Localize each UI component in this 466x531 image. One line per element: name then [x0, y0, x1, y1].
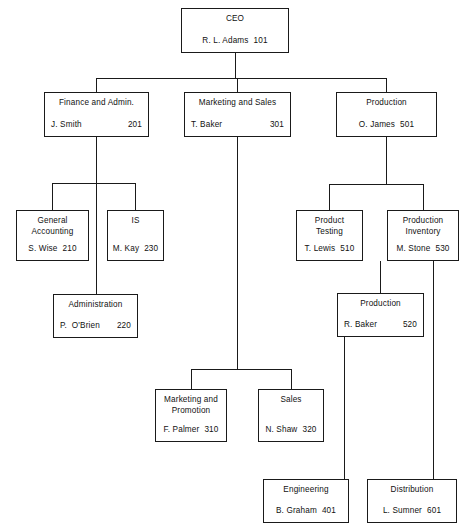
node-person-row: R. L. Adams101 [182, 36, 288, 52]
org-node-production-inventory[interactable]: Production InventoryM. Stone530 [387, 210, 459, 261]
node-person-name: N. Shaw [265, 425, 297, 435]
org-chart: CEOR. L. Adams101Finance and Admin.J. Sm… [0, 0, 466, 531]
node-person-name: B. Graham [276, 506, 317, 516]
node-title: Marketing and Promotion [156, 390, 226, 416]
node-title: CEO [182, 9, 288, 25]
node-title: Finance and Admin. [45, 93, 148, 109]
node-person-number: 310 [204, 425, 218, 435]
node-person-name: F. Palmer [163, 425, 199, 435]
org-node-ceo[interactable]: CEOR. L. Adams101 [181, 8, 289, 53]
node-person-number: 510 [340, 244, 354, 254]
org-node-distribution[interactable]: DistributionL. Sumner601 [367, 479, 457, 523]
node-person-number: 101 [254, 36, 268, 46]
node-person-name: P. O'Brien [60, 321, 100, 331]
node-person-name: O. James [359, 120, 395, 130]
node-person-number: 230 [144, 244, 158, 254]
node-person-name: T. Lewis [305, 244, 336, 254]
node-title: General Accounting [17, 211, 88, 237]
node-person-row: S. Wise210 [17, 244, 88, 260]
node-person-number: 401 [322, 506, 336, 516]
org-node-marketing-promotion[interactable]: Marketing and PromotionF. Palmer310 [155, 389, 227, 442]
node-title: IS [108, 211, 163, 227]
node-person-row: N. Shaw320 [259, 425, 323, 441]
node-title: Sales [259, 390, 323, 406]
node-person-name: L. Sumner [383, 506, 422, 516]
node-person-row: M. Kay230 [108, 244, 163, 260]
org-node-engineering[interactable]: EngineeringB. Graham401 [263, 479, 349, 523]
node-person-number: 601 [427, 506, 441, 516]
node-person-name: M. Kay [113, 244, 139, 254]
node-person-number: 301 [270, 120, 284, 130]
node-person-name: R. Baker [344, 320, 377, 330]
connector-layer [0, 0, 466, 531]
org-node-marketing[interactable]: Marketing and SalesT. Baker301 [184, 92, 291, 137]
org-node-sales[interactable]: SalesN. Shaw320 [258, 389, 324, 442]
node-person-row: T. Baker301 [185, 120, 290, 136]
node-person-row: R. Baker520 [338, 320, 423, 336]
node-title: Engineering [264, 480, 348, 496]
node-person-row: J. Smith201 [45, 120, 148, 136]
org-node-administration[interactable]: AdministrationP. O'Brien220 [53, 294, 138, 338]
node-person-row: P. O'Brien220 [54, 321, 137, 337]
node-person-number: 220 [117, 321, 131, 331]
org-node-product-testing[interactable]: Product TestingT. Lewis510 [296, 210, 363, 261]
node-title: Administration [54, 295, 137, 311]
node-person-row: L. Sumner601 [368, 506, 456, 522]
node-person-name: S. Wise [28, 244, 57, 254]
org-node-is[interactable]: ISM. Kay230 [107, 210, 164, 261]
node-person-row: M. Stone530 [388, 244, 458, 260]
node-person-number: 520 [403, 320, 417, 330]
node-person-name: T. Baker [191, 120, 222, 130]
node-person-name: R. L. Adams [202, 36, 248, 46]
org-node-production[interactable]: ProductionO. James501 [336, 92, 437, 137]
node-person-name: M. Stone [396, 244, 430, 254]
node-person-row: O. James501 [337, 120, 436, 136]
node-person-row: F. Palmer310 [156, 425, 226, 441]
node-person-row: B. Graham401 [264, 506, 348, 522]
org-node-finance[interactable]: Finance and Admin.J. Smith201 [44, 92, 149, 137]
node-title: Marketing and Sales [185, 93, 290, 109]
node-title: Production [337, 93, 436, 109]
node-person-number: 210 [63, 244, 77, 254]
node-person-name: J. Smith [51, 120, 82, 130]
org-node-general-accounting[interactable]: General AccountingS. Wise210 [16, 210, 89, 261]
node-person-number: 530 [435, 244, 449, 254]
node-title: Production Inventory [388, 211, 458, 237]
node-person-number: 501 [400, 120, 414, 130]
node-title: Production [338, 294, 423, 310]
org-node-production-520[interactable]: ProductionR. Baker520 [337, 293, 424, 337]
node-title: Product Testing [297, 211, 362, 237]
node-person-number: 320 [302, 425, 316, 435]
node-title: Distribution [368, 480, 456, 496]
node-person-number: 201 [128, 120, 142, 130]
node-person-row: T. Lewis510 [297, 244, 362, 260]
